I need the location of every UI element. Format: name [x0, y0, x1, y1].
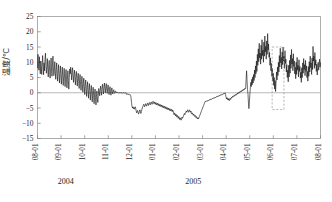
- y-axis-tick-label: 0: [30, 88, 34, 97]
- y-axis-tick-label: 20: [26, 27, 34, 36]
- y-axis-tick-label: 25: [26, 12, 34, 21]
- x-axis-tick-label: 04-01: [220, 143, 228, 160]
- y-axis-tick-label: 10: [26, 58, 34, 67]
- y-axis-tick-label: 5: [30, 73, 34, 82]
- temperature-time-series-figure: 2520151050−5−10−15 08-0109-0110-0111-011…: [0, 0, 332, 202]
- x-axis-tick-label: 03-01: [197, 143, 205, 160]
- x-axis-tick-label: 11-01: [102, 143, 110, 160]
- x-axis-tick-label: 08-01: [32, 143, 40, 160]
- y-axis-tick-label: 15: [26, 43, 34, 52]
- period-label: 2005: [185, 177, 201, 186]
- x-axis: 08-0109-0110-0111-0112-0101-0102-0103-01…: [32, 135, 323, 160]
- y-axis: 2520151050−5−10−15: [22, 12, 41, 143]
- x-axis-tick-label: 02-01: [173, 143, 181, 160]
- x-axis-tick-label: 05-01: [244, 143, 252, 160]
- y-axis-tick-label: −10: [22, 119, 34, 128]
- series-line: [38, 34, 321, 121]
- y-axis-label: 温度/℃: [1, 48, 11, 76]
- x-axis-tick-label: 09-01: [55, 143, 63, 160]
- chart-canvas: 2520151050−5−10−15 08-0109-0110-0111-011…: [0, 0, 332, 202]
- x-axis-tick-label: 07-01: [291, 143, 299, 160]
- x-axis-tick-label: 10-01: [79, 143, 87, 160]
- x-axis-tick-label: 01-01: [149, 143, 157, 160]
- period-label-group: 20042005: [58, 177, 201, 186]
- data-series-group: [38, 34, 321, 121]
- x-axis-tick-label: 06-01: [267, 143, 275, 160]
- y-axis-tick-label: −15: [22, 134, 34, 143]
- y-axis-tick-label: −5: [26, 104, 34, 113]
- period-label: 2004: [58, 177, 74, 186]
- x-axis-tick-label: 08-01: [315, 143, 323, 160]
- x-axis-tick-label: 12-01: [126, 143, 134, 160]
